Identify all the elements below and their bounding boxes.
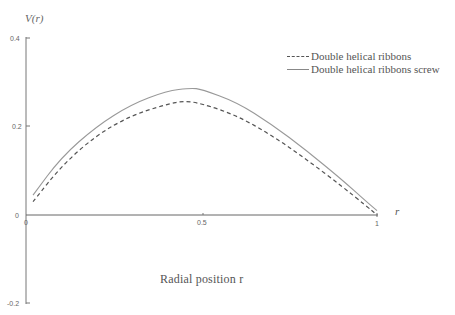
y-tick-0.2: 0.2 (12, 123, 22, 130)
legend-label: Double helical ribbons screw (311, 63, 440, 76)
x-tick-0: 0 (24, 219, 28, 226)
series-line-double-helical-ribbons-screw (33, 88, 377, 210)
series-line-double-helical-ribbons (33, 102, 377, 215)
legend-label: Double helical ribbons (311, 50, 411, 63)
solid-line-swatch-icon (287, 69, 309, 70)
y-tick-neg0.2: -0.2 (7, 300, 19, 307)
y-axis-label: V(r) (25, 12, 43, 24)
legend-item-solid: Double helical ribbons screw (287, 63, 440, 76)
y-tick-0.4: 0.4 (10, 35, 20, 42)
line-chart: 0.4 0.2 0 -0.2 0 0.5 1 r (0, 0, 455, 315)
x-tick-1: 1 (375, 220, 379, 227)
x-axis-label: Radial position r (160, 272, 243, 287)
x-tick-0.5: 0.5 (197, 219, 207, 226)
legend: Double helical ribbons Double helical ri… (287, 50, 440, 76)
dashed-line-swatch-icon (287, 56, 309, 57)
x-axis-end-label: r (395, 205, 400, 217)
y-tick-0: 0 (15, 212, 19, 219)
legend-item-dashed: Double helical ribbons (287, 50, 440, 63)
series-layer (33, 88, 377, 215)
